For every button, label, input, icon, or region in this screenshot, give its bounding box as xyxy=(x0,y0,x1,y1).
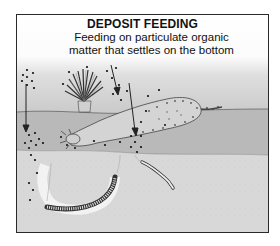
diagram-subtitle-line-1: Feeding on particulate organic xyxy=(17,31,268,44)
diagram-subtitle-line-2: matter that settles on the bottom xyxy=(17,44,268,57)
diagram-frame: DEPOSIT FEEDING Feeding on particulate o… xyxy=(16,14,269,233)
caption-block: DEPOSIT FEEDING Feeding on particulate o… xyxy=(17,17,268,57)
diagram-title: DEPOSIT FEEDING xyxy=(17,17,268,31)
